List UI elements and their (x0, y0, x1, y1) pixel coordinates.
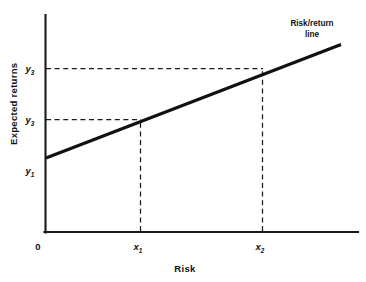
x-axis-title: Risk (174, 263, 196, 274)
risk-return-line-annotation: Risk/return line (290, 19, 333, 39)
risk-return-chart: Expected returns Risk 0 y3 y3 y1 x1 x2 (0, 0, 366, 282)
y-tick-1-subscript: 1 (31, 171, 35, 178)
annotation-line-2: line (305, 30, 320, 39)
y-tick-label-1: y1 (25, 165, 35, 178)
x-tick-label-1: x1 (133, 241, 143, 254)
x-tick-label-2: x2 (255, 241, 265, 254)
y-tick-labels-group: y3 y3 y1 (25, 63, 35, 178)
y-tick-2-subscript: 3 (31, 120, 35, 127)
x-tick-2-subscript: 2 (260, 247, 265, 254)
x-tick-1-subscript: 1 (139, 247, 143, 254)
x-tick-labels-group: x1 x2 (133, 241, 265, 254)
y-tick-label-2: y3 (25, 114, 35, 127)
data-series-group (46, 45, 341, 159)
y-tick-3-subscript: 3 (31, 69, 35, 76)
chart-canvas: Expected returns Risk 0 y3 y3 y1 x1 x2 (0, 0, 366, 282)
y-axis-title: Expected returns (8, 63, 19, 145)
origin-label: 0 (35, 241, 40, 252)
guide-lines-group (46, 69, 263, 232)
y-tick-label-3: y3 (25, 63, 35, 76)
axes-group (45, 15, 359, 233)
risk-return-line (46, 45, 341, 159)
annotation-line-1: Risk/return (290, 19, 333, 28)
